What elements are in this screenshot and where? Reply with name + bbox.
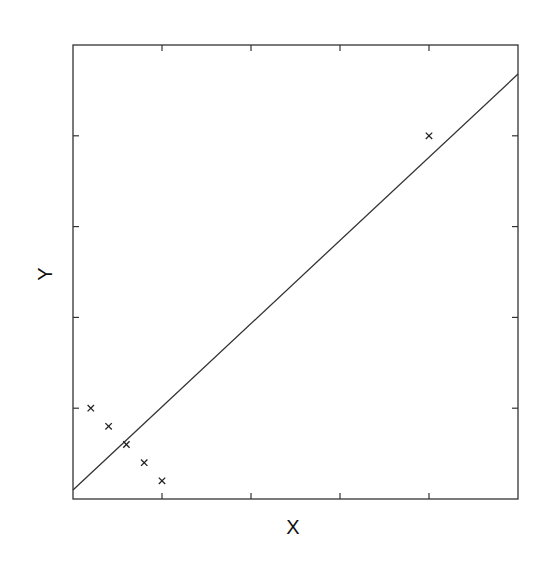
x-marker-icon xyxy=(159,478,165,484)
scatter-plot: X Y xyxy=(0,0,552,571)
data-markers xyxy=(88,133,433,484)
x-marker-icon xyxy=(123,441,129,447)
x-marker-icon xyxy=(88,405,94,411)
x-marker-icon xyxy=(426,133,432,139)
x-marker-icon xyxy=(105,423,111,429)
y-axis-label: Y xyxy=(34,267,56,280)
plot-border xyxy=(73,45,518,499)
x-marker-icon xyxy=(141,459,147,465)
axis-ticks xyxy=(73,45,518,499)
regression-line xyxy=(73,74,518,490)
fitted-line xyxy=(73,74,518,490)
plot-frame xyxy=(73,45,518,499)
x-axis-label: X xyxy=(286,516,299,538)
